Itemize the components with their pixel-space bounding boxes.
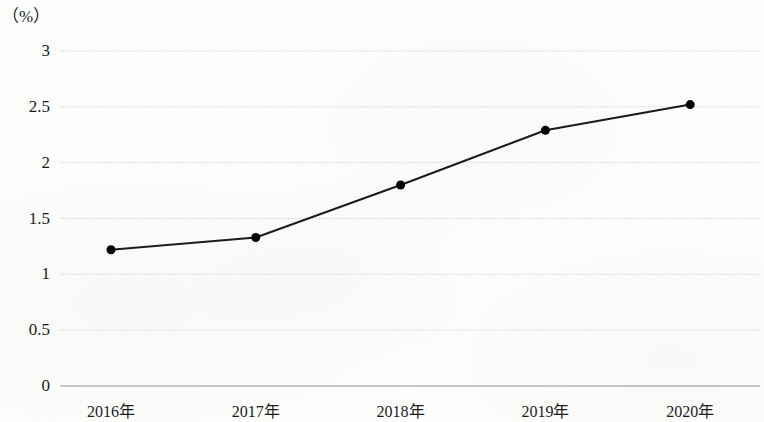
- line-chart-figure: （%） 00.511.522.53 2016年2017年2018年2019年20…: [0, 0, 764, 422]
- data-point-marker: [396, 181, 405, 190]
- y-axis-tick-label: 0.5: [0, 320, 50, 340]
- x-axis-tick-label: 2016年: [87, 398, 135, 422]
- data-point-marker: [107, 245, 116, 254]
- x-axis-tick-label: 2017年: [232, 398, 280, 422]
- data-marker-group: [107, 100, 695, 254]
- data-point-marker: [541, 126, 550, 135]
- chart-plot-area: [0, 0, 764, 422]
- gridline-group: [60, 51, 760, 386]
- x-axis-tick-label: 2020年: [666, 398, 714, 422]
- y-axis-tick-label: 0: [0, 376, 50, 396]
- data-point-marker: [251, 233, 260, 242]
- y-axis-tick-label: 1: [0, 264, 50, 284]
- x-axis-tick-label: 2019年: [521, 398, 569, 422]
- y-axis-tick-label: 2: [0, 153, 50, 173]
- data-series-group: [111, 105, 690, 250]
- x-axis-tick-label: 2018年: [377, 398, 425, 422]
- y-axis-tick-label: 1.5: [0, 209, 50, 229]
- data-point-marker: [686, 100, 695, 109]
- y-axis-tick-label: 3: [0, 41, 50, 61]
- y-axis-tick-label: 2.5: [0, 97, 50, 117]
- series-line: [111, 105, 690, 250]
